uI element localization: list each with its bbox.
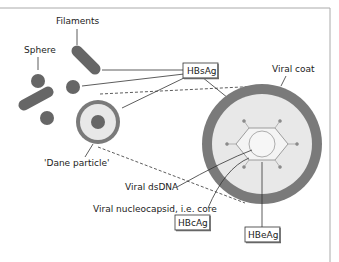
filament-particle	[77, 51, 95, 69]
dane-pointer	[85, 144, 93, 157]
label-sphere: Sphere	[24, 45, 56, 55]
label-hbsag: HBsAg	[187, 66, 217, 76]
label-viral-coat: Viral coat	[272, 64, 315, 74]
hbeag-box: HBeAg	[245, 227, 281, 243]
hbcag-box: HBcAg	[175, 215, 211, 231]
dsdna-circle	[249, 131, 275, 157]
label-hbeag: HBeAg	[248, 230, 278, 240]
label-dane-particle: 'Dane particle'	[44, 158, 109, 168]
label-hbcag: HBcAg	[178, 218, 208, 228]
sphere-particle	[31, 74, 45, 88]
sphere-particle	[66, 80, 80, 94]
hbsag-line-sphere	[82, 74, 184, 86]
sphere-particle	[40, 111, 54, 125]
label-viral-nucleocapsid: Viral nucleocapsid, i.e. core	[93, 204, 217, 214]
hepatitis-b-diagram: Filaments Sphere Viral coat 'Dane partic…	[0, 0, 339, 262]
viral-coat-pointer	[281, 76, 286, 86]
label-filaments: Filaments	[56, 16, 100, 26]
label-viral-dsdna: Viral dsDNA	[125, 182, 179, 192]
filament-particle	[24, 92, 48, 105]
dane-core	[91, 115, 105, 129]
hbsag-box: HBsAg	[183, 63, 219, 79]
hbsag-line-coat	[202, 77, 228, 98]
